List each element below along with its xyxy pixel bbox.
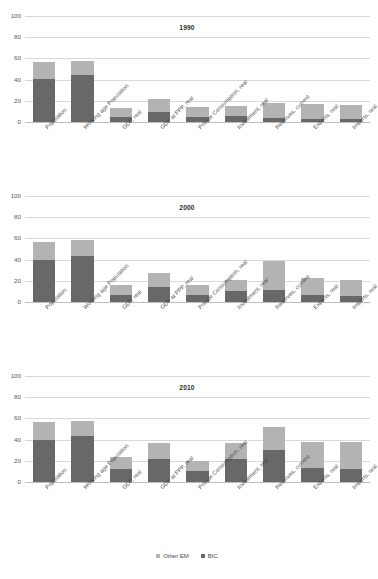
plot-area-1990: 1990 020406080100 PopulationWorking age … (0, 16, 374, 134)
y-tick-label: 20 (14, 278, 21, 284)
stacked-bar[interactable] (263, 427, 286, 482)
x-label-slot: Private Consumption, real (178, 124, 216, 184)
bar-slot (143, 196, 176, 302)
bar-segment-other-em (186, 107, 209, 117)
bar-slot (66, 16, 99, 122)
x-label-slot: Investment, real (217, 124, 255, 184)
y-tick-label: 100 (11, 193, 21, 199)
x-label-slot: Private Consumption, real (178, 304, 216, 364)
bar-segment-other-em (71, 421, 94, 437)
legend-label-other-em: Other EM (163, 553, 189, 559)
bar-segment-other-em (148, 443, 171, 458)
bar-segment-bic (33, 440, 56, 482)
x-label-slot: GDP, real (102, 124, 140, 184)
legend-swatch-bic-icon (201, 554, 205, 558)
y-tick-label: 0 (18, 479, 21, 485)
x-label-slot: Private Consumption, real (178, 484, 216, 544)
y-tick-label: 0 (18, 119, 21, 125)
x-label-slot: Exports, real (293, 124, 331, 184)
y-tick-label: 100 (11, 13, 21, 19)
y-tick-label: 20 (14, 98, 21, 104)
x-label-slot: GDP at PPP, real (140, 304, 178, 364)
y-tick-label: 80 (14, 394, 21, 400)
y-tick-label: 40 (14, 256, 21, 262)
bar-segment-bic (71, 436, 94, 482)
chart-panel-2000: 2000 020406080100 PopulationWorking age … (0, 196, 374, 371)
x-label-slot: Reserves, current (255, 124, 293, 184)
bar-segment-other-em (71, 240, 94, 256)
chart-panel-1990: 1990 020406080100 PopulationWorking age … (0, 16, 374, 191)
y-axis-ticks-2000: 020406080100 (0, 196, 24, 302)
bar-segment-other-em (110, 108, 133, 118)
bar-segment-other-em (263, 261, 286, 290)
x-label-slot: Working age Population (63, 484, 101, 544)
bar-slot (28, 376, 61, 482)
x-label-slot: Population (25, 304, 63, 364)
stacked-bar[interactable] (71, 61, 94, 122)
legend-swatch-other-em-icon (156, 554, 160, 558)
x-label-slot: Imports, real (332, 484, 370, 544)
x-label-slot: Working age Population (63, 304, 101, 364)
bar-segment-other-em (263, 427, 286, 449)
bar-segment-other-em (71, 61, 94, 76)
x-label-slot: Imports, real (332, 304, 370, 364)
bar-segment-other-em (263, 103, 286, 118)
bar-segment-other-em (110, 285, 133, 295)
x-label-slot: Reserves, current (255, 484, 293, 544)
bar-segment-other-em (148, 273, 171, 287)
bar-segment-other-em (33, 242, 56, 261)
bar-segment-bic (33, 260, 56, 302)
y-tick-label: 80 (14, 34, 21, 40)
y-tick-label: 0 (18, 299, 21, 305)
bar-segment-other-em (33, 62, 56, 79)
bar-segment-other-em (340, 442, 363, 469)
y-tick-label: 60 (14, 55, 21, 61)
y-tick-label: 40 (14, 436, 21, 442)
bar-segment-other-em (340, 280, 363, 296)
stacked-bar[interactable] (71, 421, 94, 482)
y-axis-ticks-2010: 020406080100 (0, 376, 24, 482)
legend-item-other-em: Other EM (156, 553, 189, 559)
plot-area-2010: 2010 020406080100 PopulationWorking age … (0, 376, 374, 494)
top-cutoff-text (0, 0, 374, 8)
x-axis-labels-1990: PopulationWorking age PopulationGDP, rea… (25, 124, 370, 184)
x-label-slot: GDP at PPP, real (140, 484, 178, 544)
legend-label-bic: BIC (208, 553, 218, 559)
y-tick-label: 100 (11, 373, 21, 379)
bar-slot (143, 16, 176, 122)
bar-segment-other-em (33, 422, 56, 440)
x-label-slot: Exports, real (293, 484, 331, 544)
x-axis-labels-2000: PopulationWorking age PopulationGDP, rea… (25, 304, 370, 364)
stacked-bar[interactable] (33, 422, 56, 482)
plot-area-2000: 2000 020406080100 PopulationWorking age … (0, 196, 374, 314)
stacked-bar[interactable] (340, 442, 363, 482)
x-axis-labels-2010: PopulationWorking age PopulationGDP, rea… (25, 484, 370, 544)
x-label-slot: Investment, real (217, 304, 255, 364)
y-tick-label: 20 (14, 458, 21, 464)
bar-group-1990 (25, 16, 370, 122)
bar-slot (66, 196, 99, 302)
bar-group-2000 (25, 196, 370, 302)
bar-segment-bic (33, 79, 56, 122)
y-tick-label: 60 (14, 235, 21, 241)
bar-group-2010 (25, 376, 370, 482)
x-label-slot: Reserves, current (255, 304, 293, 364)
x-label-slot: GDP, real (102, 484, 140, 544)
x-label-slot: Imports, real (332, 124, 370, 184)
bar-segment-bic (71, 75, 94, 122)
bar-segment-other-em (186, 285, 209, 296)
caption-cutoff-text (6, 570, 368, 579)
legend-item-bic: BIC (201, 553, 218, 559)
bar-slot (66, 376, 99, 482)
x-label-slot: Working age Population (63, 124, 101, 184)
stacked-bar[interactable] (33, 62, 56, 122)
bar-segment-other-em (148, 99, 171, 112)
stacked-bar[interactable] (71, 240, 94, 302)
stacked-bar[interactable] (33, 242, 56, 302)
x-label-slot: Exports, real (293, 304, 331, 364)
y-tick-label: 80 (14, 214, 21, 220)
bar-slot (143, 376, 176, 482)
bar-segment-bic (71, 256, 94, 302)
bar-slot (28, 196, 61, 302)
